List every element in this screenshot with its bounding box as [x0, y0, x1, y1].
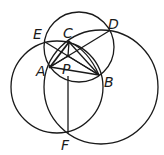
label-D: D — [108, 17, 119, 31]
label-F: F — [61, 138, 69, 152]
label-C: C — [63, 26, 73, 40]
label-E: E — [33, 27, 42, 41]
diagram-svg — [0, 0, 164, 155]
right-circle — [44, 30, 158, 144]
label-A: A — [36, 64, 46, 78]
point-P-dot — [67, 55, 70, 58]
geometry-diagram: E C D A P B F — [0, 0, 164, 155]
label-B: B — [104, 75, 114, 89]
point-A — [49, 66, 52, 69]
left-circle — [11, 41, 103, 133]
label-P: P — [62, 62, 70, 76]
